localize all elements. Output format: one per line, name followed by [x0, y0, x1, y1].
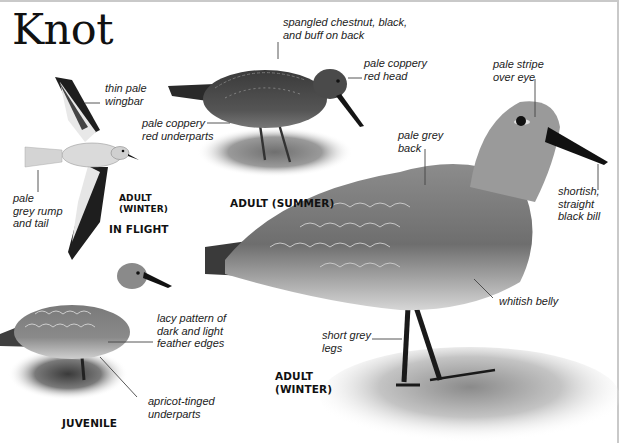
label-lacy-pattern: lacy pattern of dark and light feather e… [157, 312, 226, 350]
label-shortish-straight-black-bill: shortish, straight black bill [558, 185, 600, 223]
label-pale-stripe-over-eye: pale stripe over eye [493, 58, 544, 83]
field-guide-page: Knot thin pale wingbar pale grey rump an… [0, 0, 619, 443]
caption-adult-winter: ADULT (WINTER) [275, 370, 332, 396]
label-whitish-belly: whitish belly [499, 295, 558, 308]
caption-in-flight: IN FLIGHT [109, 223, 169, 236]
label-pale-coppery-red-head: pale coppery red head [364, 57, 427, 82]
label-short-grey-legs: short grey legs [322, 329, 371, 354]
label-spangled-back: spangled chestnut, black, and buff on ba… [283, 16, 407, 41]
label-pale-grey-back: pale grey back [398, 129, 443, 154]
label-pale-grey-rump: pale grey rump and tail [13, 192, 63, 230]
caption-juvenile: JUVENILE [62, 417, 117, 430]
caption-flight-age: ADULT (WINTER) [119, 193, 168, 215]
page-title: Knot [12, 8, 113, 51]
caption-adult-summer: ADULT (SUMMER) [230, 197, 334, 210]
label-thin-pale-wingbar: thin pale wingbar [105, 82, 147, 107]
label-pale-coppery-red-underparts: pale coppery red underparts [142, 117, 214, 142]
label-apricot-tinged-underparts: apricot-tinged underparts [148, 395, 215, 420]
juvenile-bird [0, 263, 172, 400]
